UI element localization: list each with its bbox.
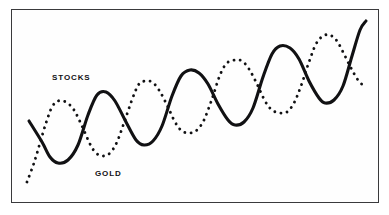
chart-plot-frame [11,9,379,203]
chart-figure: STOCKS GOLD [0,0,389,215]
series-label-gold: GOLD [95,169,122,178]
series-label-stocks: STOCKS [52,73,91,82]
